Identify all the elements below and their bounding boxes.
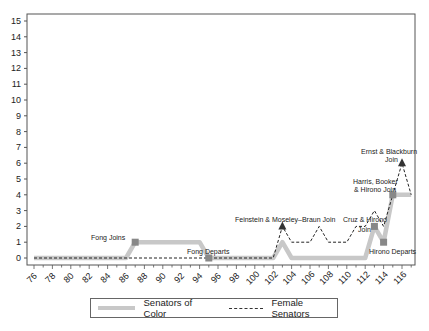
legend-item-female-senators: Female Senators (211, 297, 337, 319)
x-tick-label: 114 (373, 269, 390, 286)
annotation-ernst-1: Ernst & Blackburn (361, 148, 417, 155)
annotation-harris-2: & Hirono Join (354, 186, 396, 193)
x-axis: 7678808284868890929496981001021041061081… (25, 265, 411, 287)
y-tick-label: 11 (12, 79, 21, 89)
legend: Senators of Color Female Senators (90, 298, 338, 318)
dashed-line-swatch-icon (229, 308, 263, 309)
x-tick-label: 90 (154, 271, 168, 285)
x-tick-label: 100 (244, 269, 262, 287)
x-tick-label: 92 (172, 271, 186, 285)
line-chart: 0123456789101112131415 76788082848688909… (0, 0, 429, 331)
x-tick-label: 116 (391, 269, 408, 286)
x-tick-label: 84 (98, 271, 112, 285)
annotation-hirono-departs: Hirono Departs (369, 248, 417, 256)
x-tick-label: 96 (209, 271, 223, 285)
x-tick-label: 98 (227, 271, 241, 285)
square-marker-icon (132, 239, 139, 246)
x-tick-label: 94 (190, 271, 204, 285)
annotation-harris-1: Harris, Booker (353, 178, 398, 185)
y-tick-label: 0 (16, 253, 21, 263)
solid-line-swatch-icon (98, 306, 135, 310)
annotation-ernst-2: Join (385, 156, 398, 163)
annotation-fong-joins: Fong Joins (91, 234, 126, 242)
x-tick-label: 76 (25, 271, 39, 285)
x-tick-label: 102 (262, 269, 280, 287)
y-tick-label: 9 (16, 111, 21, 121)
y-tick-label: 13 (11, 48, 21, 58)
plot-frame (27, 14, 415, 265)
y-tick-label: 12 (11, 63, 21, 73)
y-tick-label: 4 (16, 190, 21, 200)
markers-layer (132, 158, 406, 261)
y-tick-label: 1 (16, 237, 21, 247)
x-tick-label: 110 (336, 269, 353, 286)
y-tick-label: 7 (16, 142, 21, 152)
y-tick-label: 14 (11, 32, 21, 42)
x-tick-label: 108 (317, 269, 335, 287)
triangle-marker-icon (398, 158, 406, 166)
annotation-cruz-2: Join (358, 226, 371, 233)
x-tick-label: 86 (117, 271, 131, 285)
square-marker-icon (380, 239, 387, 246)
y-tick-label: 2 (16, 221, 21, 231)
y-axis: 0123456789101112131415 (11, 16, 27, 263)
y-tick-label: 3 (16, 206, 21, 216)
x-tick-label: 104 (281, 269, 299, 287)
x-tick-label: 82 (80, 271, 94, 285)
legend-label-senators-of-color: Senators of Color (144, 297, 212, 319)
legend-label-female-senators: Female Senators (271, 297, 337, 319)
annotation-feinstein: Feinstein & Moseley–Braun Join (235, 216, 335, 224)
x-tick-label: 88 (135, 271, 149, 285)
y-tick-label: 5 (16, 174, 21, 184)
y-tick-label: 8 (16, 127, 21, 137)
x-tick-label: 78 (43, 271, 57, 285)
legend-item-senators-of-color: Senators of Color (91, 297, 211, 319)
y-tick-label: 10 (11, 95, 21, 105)
x-tick-label: 112 (354, 269, 371, 286)
annotation-fong-departs: Fong Departs (187, 248, 230, 256)
x-tick-label: 80 (62, 271, 76, 285)
y-tick-label: 6 (16, 158, 21, 168)
x-tick-label: 106 (299, 269, 317, 287)
square-marker-icon (205, 255, 212, 262)
annotation-cruz-1: Cruz & Hirono (343, 216, 387, 223)
y-tick-label: 15 (11, 16, 21, 26)
square-marker-icon (371, 223, 378, 230)
